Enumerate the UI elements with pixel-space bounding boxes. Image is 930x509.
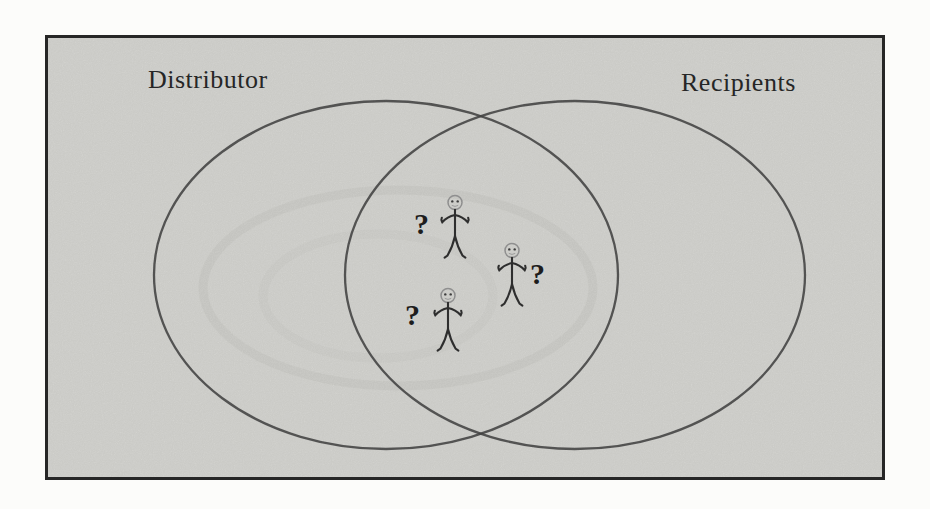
question-mark: ? xyxy=(405,300,420,330)
question-mark: ? xyxy=(530,259,545,289)
person-icon xyxy=(430,287,466,355)
person-icon xyxy=(437,194,473,262)
left-set-label: Distributor xyxy=(148,65,268,95)
right-set-label: Recipients xyxy=(681,68,796,98)
diagram-panel: Distributor Recipients ? ? ? xyxy=(45,35,885,480)
question-mark: ? xyxy=(414,209,429,239)
person-icon xyxy=(494,242,530,310)
